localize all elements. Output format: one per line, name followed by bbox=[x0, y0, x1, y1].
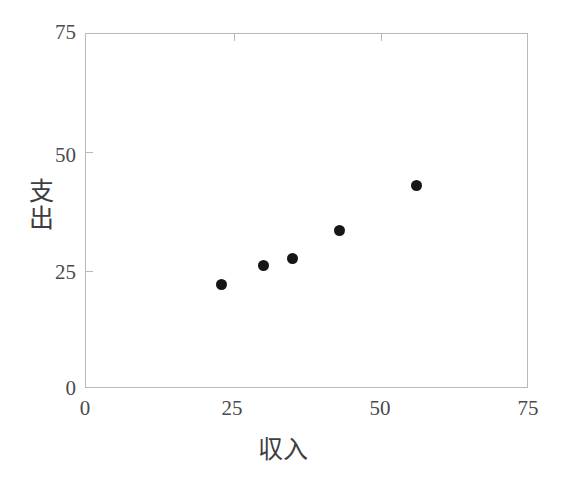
x-tick-label-75: 75 bbox=[514, 398, 542, 419]
plot-area bbox=[85, 33, 528, 388]
y-tick-label-0: 0 bbox=[48, 378, 76, 399]
x-tick-label-25: 25 bbox=[218, 398, 246, 419]
chart-screenshot: 支 出 75 50 25 0 0 25 50 75 収入 bbox=[0, 0, 566, 481]
data-point bbox=[411, 180, 422, 191]
x-tick-25 bbox=[234, 34, 235, 41]
y-axis-title-char-1: 支 bbox=[24, 178, 58, 205]
y-tick-25 bbox=[86, 271, 93, 272]
y-axis-title-char-2: 出 bbox=[24, 205, 58, 232]
y-tick-label-50: 50 bbox=[48, 145, 76, 166]
x-tick-label-0: 0 bbox=[71, 398, 99, 419]
x-tick-label-50: 50 bbox=[366, 398, 394, 419]
data-point bbox=[287, 253, 298, 264]
data-point bbox=[216, 279, 227, 290]
data-point bbox=[258, 260, 269, 271]
x-axis-title: 収入 bbox=[0, 437, 566, 462]
y-axis-title: 支 出 bbox=[24, 178, 58, 232]
data-point bbox=[334, 225, 345, 236]
y-tick-label-25: 25 bbox=[48, 262, 76, 283]
y-tick-50 bbox=[86, 152, 93, 153]
x-tick-50 bbox=[381, 34, 382, 41]
y-tick-label-75: 75 bbox=[48, 22, 76, 43]
